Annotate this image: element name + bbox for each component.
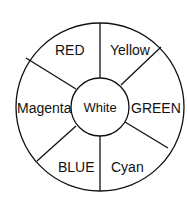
segment-label-blue: BLUE: [58, 159, 95, 175]
segment-label-red: RED: [55, 42, 85, 58]
color-wheel-diagram: RED Yellow GREEN Cyan BLUE Magenta White: [0, 0, 187, 203]
center-label-white: White: [83, 100, 116, 115]
segment-label-green: GREEN: [131, 100, 181, 116]
segment-label-magenta: Magenta: [17, 100, 72, 116]
segment-label-cyan: Cyan: [111, 159, 144, 175]
segment-label-yellow: Yellow: [110, 42, 151, 58]
